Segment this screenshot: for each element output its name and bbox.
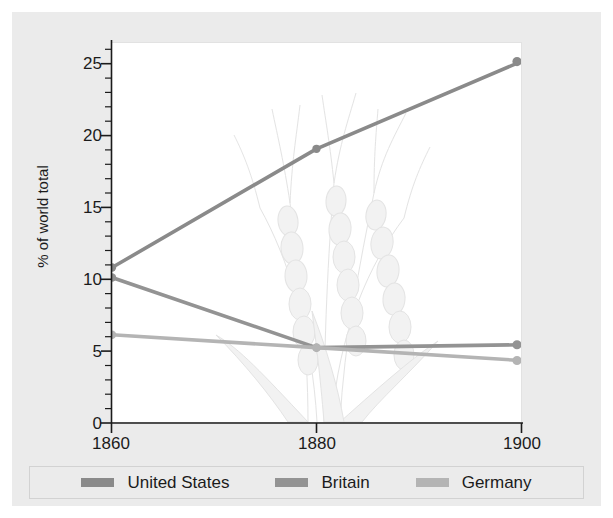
y-tick-label: 10 <box>68 271 102 288</box>
series-united-states <box>112 57 521 272</box>
legend-swatch-icon <box>81 478 114 487</box>
legend-label: United States <box>127 473 229 493</box>
legend-item-germany[interactable]: Germany <box>416 473 532 493</box>
legend-item-britain[interactable]: Britain <box>275 473 369 493</box>
legend-label: Britain <box>321 473 369 493</box>
data-point <box>512 340 521 349</box>
chart-figure: 25 20 15 10 5 0 1860 1880 1900 % of worl… <box>12 12 601 506</box>
y-tick-label: 15 <box>68 199 102 216</box>
chart-legend: United States Britain Germany <box>29 466 584 499</box>
data-point <box>512 356 521 365</box>
y-tick-label: 20 <box>68 127 102 144</box>
legend-label: Germany <box>462 473 532 493</box>
data-point <box>312 145 320 153</box>
y-tick-label: 5 <box>68 343 102 360</box>
plot-area <box>111 42 522 423</box>
x-tick-label-group: 1860 1880 1900 <box>12 434 601 458</box>
data-point <box>112 331 116 339</box>
wheat-watermark-icon <box>216 93 438 422</box>
x-tick-label: 1860 <box>66 434 156 454</box>
legend-swatch-icon <box>275 478 308 487</box>
x-tick-label: 1900 <box>477 434 567 454</box>
y-major-ticks <box>101 64 111 423</box>
y-tick-label-group: 25 20 15 10 5 0 <box>62 12 102 506</box>
x-major-ticks <box>112 423 522 433</box>
y-tick-label: 0 <box>68 415 102 432</box>
legend-swatch-icon <box>416 478 449 487</box>
data-point <box>312 343 320 351</box>
plot-graphics <box>112 43 521 422</box>
y-tick-label: 25 <box>68 55 102 72</box>
y-axis-title: % of world total <box>34 117 51 317</box>
x-tick-label: 1880 <box>272 434 362 454</box>
legend-item-united-states[interactable]: United States <box>81 473 229 493</box>
